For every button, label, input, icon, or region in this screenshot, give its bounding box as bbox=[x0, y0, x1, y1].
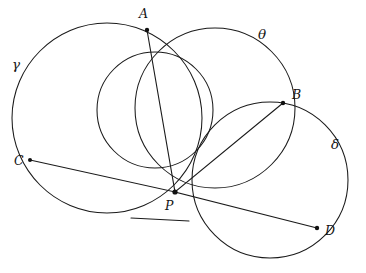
label-point-p: P bbox=[165, 200, 173, 213]
point-marker-b bbox=[281, 101, 285, 105]
tangent-line-at-p bbox=[131, 218, 189, 221]
geometry-figure: A B C D P γ θ δ bbox=[0, 0, 366, 273]
label-circle-delta: δ bbox=[331, 138, 339, 152]
point-marker-c bbox=[28, 158, 32, 162]
point-marker-d bbox=[315, 226, 319, 230]
point-marker-p bbox=[172, 189, 177, 194]
point-marker-a bbox=[145, 28, 149, 32]
label-point-a: A bbox=[139, 8, 148, 21]
geometry-canvas bbox=[0, 0, 366, 273]
label-circle-gamma: γ bbox=[12, 58, 20, 72]
label-point-b: B bbox=[292, 89, 301, 102]
label-circle-theta: θ bbox=[258, 28, 266, 42]
chord-c-p-b bbox=[30, 103, 283, 192]
label-point-c: C bbox=[14, 155, 24, 168]
label-point-d: D bbox=[325, 225, 335, 238]
